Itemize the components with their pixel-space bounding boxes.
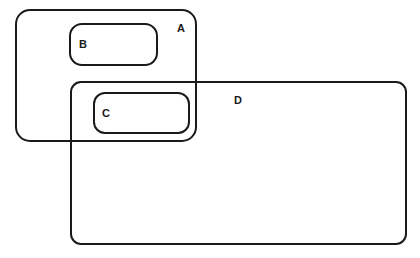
label-c: C bbox=[102, 107, 110, 119]
label-d: D bbox=[234, 94, 242, 106]
region-d bbox=[71, 82, 406, 244]
region-a bbox=[16, 10, 196, 141]
venn-diagram: A B D C bbox=[0, 0, 420, 258]
label-a: A bbox=[177, 22, 185, 34]
label-b: B bbox=[79, 38, 87, 50]
